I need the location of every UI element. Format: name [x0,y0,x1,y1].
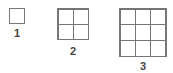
grid-cell [150,40,166,57]
figure-label: 2 [63,45,83,57]
grid-cell [135,9,151,26]
grid-cell [73,24,89,40]
figure-label: 1 [7,27,27,39]
grid-cell [58,24,74,40]
grid-cell [73,9,89,25]
grid-cell [150,9,166,26]
square-grid-1x1 [9,8,25,24]
grid-cell [120,40,136,57]
grid-cell [135,24,151,41]
grid-cell [58,9,74,25]
square-grid-2x2 [57,8,89,40]
grid-cell [120,24,136,41]
grid-cell [120,9,136,26]
square-grid-3x3 [119,8,167,57]
grid-cell [135,40,151,57]
figure-label: 3 [133,60,153,72]
grid-cell [150,24,166,41]
